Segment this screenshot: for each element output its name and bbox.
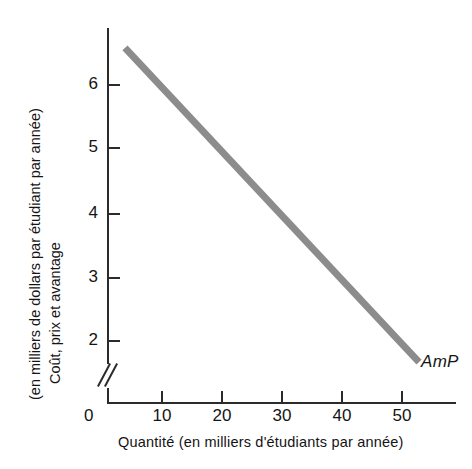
chart-figure: Coût, prix et avantage (en milliers de d… [0,0,472,469]
x-axis-title: Quantité (en milliers d'étudiants par an… [118,434,404,450]
series-label-amp: AmP [421,352,459,372]
plot-area [0,0,472,469]
series-line-amp [125,48,419,362]
